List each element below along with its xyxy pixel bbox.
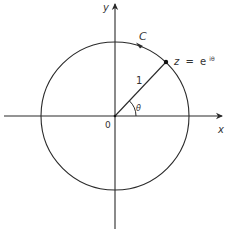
y-axis-label: y bbox=[102, 2, 110, 13]
point-z-base: e bbox=[200, 56, 206, 67]
point-z-symbol: z bbox=[173, 56, 180, 67]
x-axis-label: x bbox=[217, 124, 224, 135]
unit-circle-diagram: y x 0 C 1 θ z = e iθ bbox=[0, 0, 226, 239]
point-z-label: z = e iθ bbox=[173, 55, 215, 67]
circle-label-c: C bbox=[139, 30, 147, 43]
angle-label: θ bbox=[136, 104, 141, 113]
point-z-exponent: iθ bbox=[209, 55, 215, 62]
origin-dot bbox=[114, 115, 117, 118]
point-z bbox=[164, 60, 168, 64]
radius-label: 1 bbox=[136, 75, 142, 86]
origin-label: 0 bbox=[105, 120, 111, 130]
point-z-equals: = bbox=[185, 56, 193, 67]
